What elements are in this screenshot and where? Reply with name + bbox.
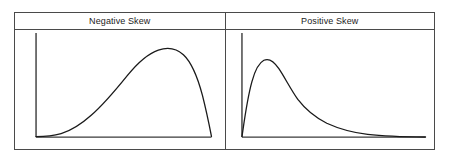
positive-skew-curve: [241, 60, 425, 137]
panel-header-positive-skew: Positive Skew: [226, 13, 435, 30]
panel-title-negative-skew: Negative Skew: [89, 16, 150, 26]
negative-skew-chart: [15, 30, 225, 149]
negative-skew-curve: [36, 48, 211, 136]
panel-body-positive-skew: [226, 30, 435, 149]
panel-title-positive-skew: Positive Skew: [301, 16, 358, 26]
positive-skew-chart: [226, 30, 435, 149]
panel-body-negative-skew: [15, 30, 225, 149]
panel-negative-skew: Negative Skew: [15, 13, 225, 149]
panel-positive-skew: Positive Skew: [225, 13, 435, 149]
skewness-comparison-figure: Negative Skew Positive Skew: [14, 12, 435, 150]
panel-header-negative-skew: Negative Skew: [15, 13, 225, 30]
